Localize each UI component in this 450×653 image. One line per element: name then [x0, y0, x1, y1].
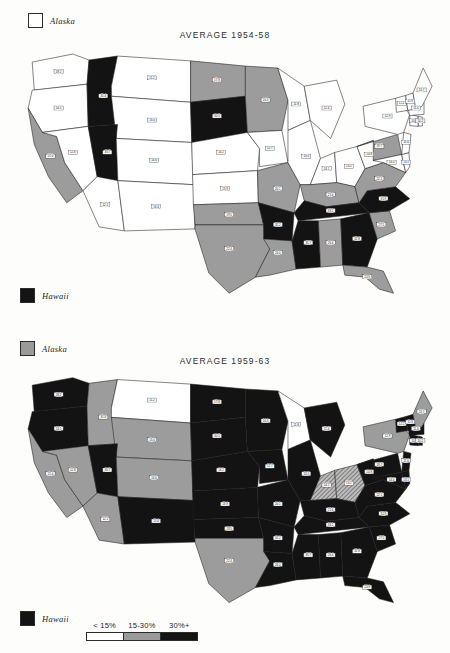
- state-value-oh: 13.2: [346, 481, 352, 485]
- state-value-ia: 12.7: [267, 464, 273, 468]
- state-value-id: 31.4: [100, 415, 106, 419]
- state-value-nd: 17.8: [214, 400, 220, 404]
- legend-alaska-panel-1: Alaska: [28, 13, 75, 28]
- state-value-mt: 11.2: [149, 398, 155, 402]
- state-value-fl: 23.9: [364, 585, 370, 589]
- state-value-il: 13.5: [303, 472, 309, 476]
- state-value-id: 31.4: [100, 94, 106, 98]
- state-value-ga: 32.8: [354, 549, 360, 553]
- hawaii-swatch-icon: [20, 611, 35, 626]
- state-value-wy: 13.0: [149, 438, 155, 442]
- state-value-nm: 13.4: [153, 205, 159, 209]
- alaska-swatch-icon: [28, 13, 43, 28]
- state-value-nv: 12.8: [70, 150, 76, 154]
- state-value-nm: 13.4: [153, 519, 159, 523]
- state-value-co: 14.6: [151, 476, 157, 480]
- us-choropleth-map-1959-63[interactable]: 18.214.521.012.831.411.213.033.714.612.1…: [0, 366, 450, 611]
- state-value-sc: 27.5: [379, 536, 385, 540]
- state-value-vt: 12.2: [399, 422, 405, 426]
- legend-hawaii-label: Hawaii: [42, 614, 69, 624]
- scale-legend-bar: [86, 632, 198, 641]
- state-value-wa: 18.2: [56, 393, 62, 397]
- state-value-nd: 17.8: [214, 78, 220, 82]
- state-value-wv: 14.8: [366, 152, 372, 156]
- state-value-mo: 20.1: [275, 502, 281, 506]
- figure-page: Alaska AVERAGE 1954-58 Hawaii Alaska AVE…: [0, 0, 450, 653]
- state-value-nj: 11.6: [403, 459, 409, 463]
- state-value-sd: 30.5: [214, 114, 220, 118]
- state-value-nv: 12.8: [70, 468, 76, 472]
- state-value-pa: 19.7: [377, 463, 383, 467]
- state-value-la: 24.0: [275, 563, 281, 567]
- state-value-il: 13.5: [303, 154, 309, 158]
- legend-hawaii-panel-2: Hawaii: [20, 611, 69, 626]
- state-value-ar: 32.2: [275, 223, 281, 227]
- state-value-mt: 11.2: [149, 76, 155, 80]
- scale-label-low: < 15%: [86, 621, 123, 630]
- state-value-fl: 23.9: [364, 275, 370, 279]
- state-value-az: 12.1: [102, 203, 108, 207]
- state-value-ga: 32.8: [354, 237, 360, 241]
- state-value-ri: 10.2: [418, 119, 424, 123]
- state-value-ma: 11.4: [413, 427, 419, 431]
- state-value-wi: 11.8: [293, 423, 299, 427]
- state-value-mi: 12.4: [324, 427, 330, 431]
- state-value-ca: 21.0: [48, 154, 54, 158]
- state-value-ks: 13.9: [222, 502, 228, 506]
- state-value-me: 13.7: [419, 88, 425, 92]
- state-tx[interactable]: [195, 538, 270, 602]
- scale-bar-segment-high: [160, 633, 197, 640]
- state-value-sd: 30.5: [214, 434, 220, 438]
- state-value-ny: 12.9: [385, 114, 391, 118]
- state-value-ok: 19.5: [226, 527, 232, 531]
- us-choropleth-map-1954-58[interactable]: 18.214.521.012.831.411.213.033.714.612.1…: [0, 40, 450, 305]
- state-value-de: 13.1: [403, 160, 409, 164]
- state-value-tx: 22.4: [226, 559, 232, 563]
- state-value-nj: 11.6: [403, 140, 409, 144]
- state-value-ne: 14.2: [218, 468, 224, 472]
- alaska-swatch-icon: [20, 341, 35, 356]
- state-value-ma: 11.4: [413, 106, 419, 110]
- state-value-tx: 22.4: [226, 247, 232, 251]
- state-value-ca: 21.0: [48, 472, 54, 476]
- state-shapes: [28, 378, 432, 603]
- state-value-ia: 12.7: [267, 146, 273, 150]
- state-value-me: 13.7: [419, 410, 425, 414]
- state-value-co: 14.6: [151, 158, 157, 162]
- state-value-ri: 10.2: [418, 439, 424, 443]
- state-value-wy: 13.0: [149, 118, 155, 122]
- state-value-ky: 21.6: [328, 193, 334, 197]
- state-value-va: 22.1: [377, 493, 383, 497]
- scale-legend: < 15% 15-30% 30%+: [86, 621, 198, 641]
- state-ms[interactable]: [292, 221, 320, 269]
- state-value-al: 26.4: [328, 553, 334, 557]
- state-value-pa: 19.7: [377, 144, 383, 148]
- state-value-vt: 12.2: [399, 101, 405, 105]
- state-value-al: 26.4: [328, 241, 334, 245]
- state-value-md: 14.0: [389, 160, 395, 164]
- scale-bar-segment-low: [87, 633, 123, 640]
- scale-label-mid: 15-30%: [123, 621, 160, 630]
- state-value-la: 24.0: [275, 251, 281, 255]
- legend-alaska-label: Alaska: [42, 344, 67, 354]
- state-value-wa: 18.2: [56, 70, 62, 74]
- state-value-oh: 13.2: [346, 164, 352, 168]
- state-value-nh: 11.9: [407, 420, 413, 424]
- state-value-ut: 33.7: [104, 150, 110, 154]
- state-tx[interactable]: [195, 225, 270, 293]
- state-value-nc: 31.9: [381, 512, 387, 516]
- state-value-ok: 19.5: [226, 213, 232, 217]
- state-value-ny: 12.9: [385, 434, 391, 438]
- state-value-va: 22.1: [377, 177, 383, 181]
- state-value-ut: 33.7: [104, 468, 110, 472]
- state-value-tn: 33.1: [328, 523, 334, 527]
- scale-label-high: 30%+: [161, 621, 198, 630]
- map-title-2: AVERAGE 1959-63: [0, 356, 450, 366]
- state-value-md: 14.0: [389, 478, 395, 482]
- state-value-nc: 31.9: [381, 197, 387, 201]
- state-value-wi: 11.8: [293, 102, 299, 106]
- state-value-ne: 14.2: [218, 150, 224, 154]
- state-value-nh: 11.9: [407, 99, 413, 103]
- state-value-ms: 35.7: [305, 241, 311, 245]
- state-fl[interactable]: [343, 265, 394, 293]
